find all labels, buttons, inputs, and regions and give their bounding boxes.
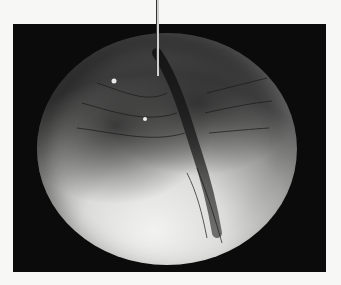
debris-particle (143, 117, 147, 121)
cell-sphere (37, 33, 297, 265)
debris-particle (112, 79, 117, 84)
cleavage-furrow (37, 33, 297, 265)
pointer-line (156, 0, 159, 76)
micrograph-panel (13, 24, 326, 272)
